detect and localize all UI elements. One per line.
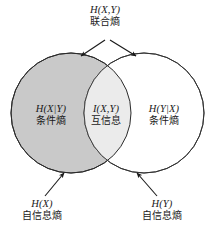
self-entropy-y-cjk: 自信息熵 <box>122 210 202 221</box>
arrow-self-entropy-y-to-right-circle <box>137 173 157 196</box>
label-joint-entropy: H(X,Y) 联合熵 <box>0 4 210 27</box>
joint-entropy-cjk: 联合熵 <box>0 16 210 27</box>
label-self-entropy-y: H(Y) 自信息熵 <box>122 198 202 221</box>
conditional-entropy-x-given-y-math: H(X|Y) <box>13 103 89 115</box>
label-conditional-entropy-y-given-x: H(Y|X) 条件熵 <box>128 103 200 126</box>
arrow-self-entropy-x-to-left-circle <box>45 173 64 196</box>
arrow-joint-to-left-circle <box>81 40 105 56</box>
arrow-joint-to-right-circle <box>110 40 136 56</box>
mutual-information-math: I(X,Y) <box>84 103 128 115</box>
joint-entropy-math: H(X,Y) <box>0 4 210 16</box>
self-entropy-x-cjk: 自信息熵 <box>4 210 80 221</box>
label-conditional-entropy-x-given-y: H(X|Y) 条件熵 <box>13 103 89 126</box>
conditional-entropy-x-given-y-cjk: 条件熵 <box>13 115 89 126</box>
label-mutual-information: I(X,Y) 互信息 <box>84 103 128 126</box>
label-self-entropy-x: H(X) 自信息熵 <box>4 198 80 221</box>
conditional-entropy-y-given-x-cjk: 条件熵 <box>128 115 200 126</box>
conditional-entropy-y-given-x-math: H(Y|X) <box>128 103 200 115</box>
self-entropy-x-math: H(X) <box>4 198 80 210</box>
mutual-information-cjk: 互信息 <box>84 115 128 126</box>
self-entropy-y-math: H(Y) <box>122 198 202 210</box>
